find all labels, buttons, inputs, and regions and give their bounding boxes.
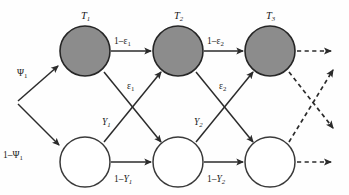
edge-label-one-minus-eps-2: 1–ε2 bbox=[207, 36, 225, 47]
node-T3[interactable] bbox=[245, 26, 295, 76]
state-transition-diagram: T1 T2 T3 Ψ1 1–Ψ1 1–ε1 1–ε2 ε1 ε2 Y1 bbox=[0, 0, 349, 195]
edge-label-psi-1: Ψ1 bbox=[17, 68, 27, 79]
diagram-canvas: T1 T2 T3 Ψ1 1–Ψ1 1–ε1 1–ε2 ε1 ε2 Y1 bbox=[0, 0, 349, 195]
node-B3[interactable] bbox=[245, 137, 295, 187]
edge-label-y-1: Y1 bbox=[102, 117, 111, 128]
node-label-T3: T3 bbox=[266, 10, 276, 22]
edge-label-eps-2: ε2 bbox=[219, 81, 227, 92]
node-label-T1: T1 bbox=[81, 10, 90, 22]
edge-label-eps-1: ε1 bbox=[127, 81, 134, 92]
node-B2[interactable] bbox=[153, 137, 203, 187]
edge-label-one-minus-eps-1: 1–ε1 bbox=[114, 36, 131, 47]
node-T1[interactable] bbox=[60, 26, 110, 76]
edge-label-y-2: Y2 bbox=[194, 117, 203, 128]
edge-label-one-minus-psi-1: 1–Ψ1 bbox=[3, 150, 23, 161]
edge-label-one-minus-y-2: 1–Y2 bbox=[207, 174, 226, 185]
node-T2[interactable] bbox=[153, 26, 203, 76]
edge-entry-to-B1 bbox=[18, 104, 59, 145]
edge-label-one-minus-y-1: 1–Y1 bbox=[114, 174, 132, 185]
node-B1[interactable] bbox=[60, 137, 110, 187]
node-label-T2: T2 bbox=[174, 10, 184, 22]
